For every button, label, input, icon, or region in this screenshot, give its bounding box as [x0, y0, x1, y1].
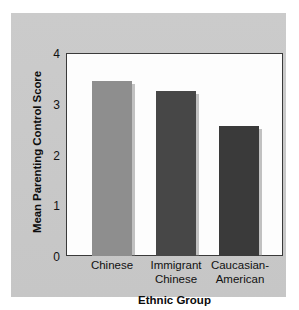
bar-immigrant-chinese[interactable] [156, 91, 196, 256]
y-tick-label: 1 [42, 200, 60, 212]
bar-series [66, 53, 283, 256]
bar-caucasian-american[interactable] [219, 126, 259, 256]
x-tick-line: American [197, 273, 283, 287]
y-tick-label: 3 [42, 99, 60, 111]
y-tick-label: 4 [42, 48, 60, 60]
bar-shadow [259, 129, 262, 256]
y-tick-label: 2 [42, 150, 60, 162]
x-tick-label-caucasian-american: Caucasian- American [197, 259, 283, 286]
bar-body [92, 81, 132, 256]
bar-shadow [132, 84, 135, 256]
bar-chinese[interactable] [92, 81, 132, 256]
y-axis-tick-labels: 4 3 2 1 0 [40, 53, 60, 256]
y-tick-label: 0 [42, 251, 60, 263]
x-tick-line: Caucasian- [197, 259, 283, 273]
bar-body [156, 91, 196, 256]
x-axis-title: Ethnic Group [66, 294, 283, 306]
figure: Mean Parenting Control Score 4 3 2 1 0 [0, 0, 299, 310]
figure-panel: Mean Parenting Control Score 4 3 2 1 0 [11, 13, 286, 297]
x-axis-tick-labels: Chinese Immigrant Chinese Caucasian- Ame… [66, 259, 283, 293]
bar-shadow [196, 94, 199, 256]
bar-body [219, 126, 259, 256]
